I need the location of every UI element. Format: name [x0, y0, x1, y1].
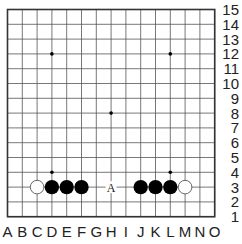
row-label-4: 4 [219, 165, 239, 180]
black-stone-E3[interactable] [59, 180, 73, 194]
white-stone-M3[interactable] [178, 180, 192, 194]
marker-label-H3[interactable]: A [107, 181, 116, 195]
black-stone-L3[interactable] [163, 180, 177, 194]
column-label-E: E [60, 224, 74, 239]
star-point-H8 [109, 111, 113, 115]
row-label-9: 9 [219, 91, 239, 106]
column-label-C: C [30, 224, 44, 239]
black-stone-F3[interactable] [74, 180, 88, 194]
column-label-N: N [193, 224, 207, 239]
column-label-A: A [1, 224, 15, 239]
column-label-M: M [178, 224, 192, 239]
star-point-L4 [169, 171, 173, 175]
column-label-I: I [119, 224, 133, 239]
white-stone-C3[interactable] [30, 180, 44, 194]
row-label-2: 2 [219, 194, 239, 209]
column-label-K: K [149, 224, 163, 239]
column-label-D: D [45, 224, 59, 239]
star-point-D12 [50, 52, 54, 56]
column-label-H: H [104, 224, 118, 239]
row-label-7: 7 [219, 120, 239, 135]
row-label-13: 13 [219, 32, 239, 47]
black-stone-D3[interactable] [45, 180, 59, 194]
column-label-L: L [163, 224, 177, 239]
board-grid[interactable]: A [0, 0, 242, 244]
row-label-8: 8 [219, 106, 239, 121]
row-label-11: 11 [219, 61, 239, 76]
go-board: A ABCDEFGHIJKLMNO 151413121110987654321 [0, 0, 242, 244]
row-label-6: 6 [219, 135, 239, 150]
row-label-3: 3 [219, 180, 239, 195]
row-label-1: 1 [219, 209, 239, 224]
column-label-O: O [208, 224, 222, 239]
row-label-14: 14 [219, 17, 239, 32]
row-label-10: 10 [219, 76, 239, 91]
row-label-15: 15 [219, 2, 239, 17]
column-label-J: J [134, 224, 148, 239]
black-stone-K3[interactable] [148, 180, 162, 194]
row-label-12: 12 [219, 46, 239, 61]
star-point-L12 [169, 52, 173, 56]
column-label-B: B [15, 224, 29, 239]
column-label-F: F [75, 224, 89, 239]
star-point-D4 [50, 171, 54, 175]
column-label-G: G [89, 224, 103, 239]
row-label-5: 5 [219, 150, 239, 165]
black-stone-J3[interactable] [134, 180, 148, 194]
